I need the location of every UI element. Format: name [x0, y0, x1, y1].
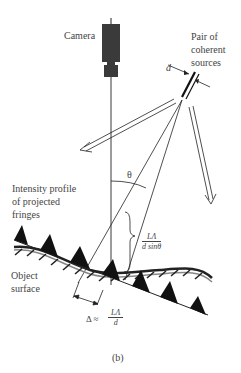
coherent-sources-icon: [168, 65, 210, 99]
intensity-label-line2: of projected: [12, 196, 60, 208]
d-label: d: [166, 62, 171, 74]
camera-label: Camera: [64, 30, 95, 42]
fringe-spacing-numerator: LΛ: [142, 232, 161, 242]
sources-label-line1: Pair of: [191, 31, 218, 43]
fringe-spacing-formula: LΛ d sinθ: [142, 232, 161, 251]
intensity-label-line1: Intensity profile: [12, 183, 76, 195]
camera-icon: [102, 18, 120, 77]
delta-dimension: [73, 282, 103, 305]
sources-label-line3: sources: [191, 57, 221, 69]
fringe-spacing-denominator: d sinθ: [142, 242, 161, 251]
delta-denominator: d: [108, 318, 123, 327]
intensity-label-line3: fringes: [12, 209, 40, 221]
figure-caption: (b): [112, 352, 124, 364]
object-label-line2: surface: [11, 283, 40, 295]
object-label-line1: Object: [11, 270, 38, 282]
theta-label: θ: [127, 169, 132, 181]
delta-numerator: LΛ: [108, 308, 123, 318]
sources-label-line2: coherent: [191, 44, 225, 56]
fringe-spacing-brace: [124, 212, 135, 272]
delta-prefix: Δ ≈: [86, 313, 98, 325]
beam-arrow-right: [189, 106, 216, 204]
delta-formula: LΛ d: [108, 308, 123, 327]
beam-arrow-left: [80, 99, 176, 152]
theta-arc: [111, 181, 146, 188]
